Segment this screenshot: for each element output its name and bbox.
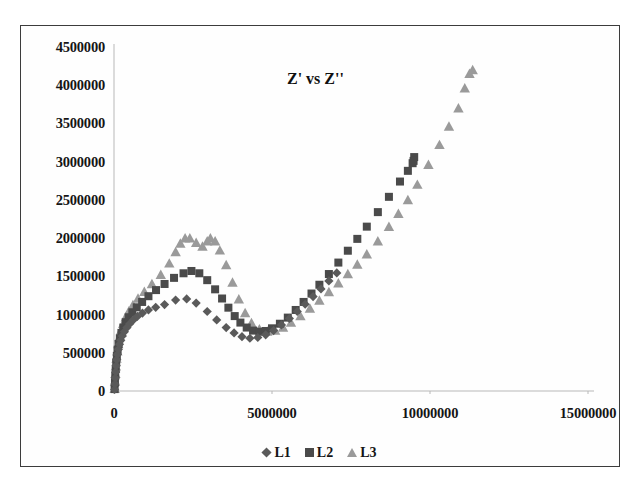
data-point-square bbox=[374, 208, 382, 216]
data-point-triangle bbox=[215, 245, 225, 254]
data-point-triangle bbox=[170, 247, 180, 256]
y-axis-tick-label: 3500000 bbox=[0, 115, 105, 132]
data-point-square bbox=[385, 193, 393, 201]
data-point-square bbox=[195, 269, 203, 277]
legend-entry-L2[interactable]: L2 bbox=[305, 444, 333, 461]
series-layer bbox=[109, 65, 477, 394]
data-point-diamond bbox=[171, 295, 180, 304]
legend-triangle-icon bbox=[347, 448, 357, 457]
y-axis-tick-label: 500000 bbox=[0, 344, 105, 361]
x-axis-tick-label: 5000000 bbox=[247, 405, 296, 422]
legend-label: L1 bbox=[274, 445, 290, 461]
y-axis-tick-label: 1500000 bbox=[0, 268, 105, 285]
series-L2 bbox=[111, 153, 419, 393]
legend-label: L2 bbox=[317, 445, 333, 461]
data-point-triangle bbox=[423, 160, 433, 169]
legend-label: L3 bbox=[360, 445, 376, 461]
data-point-square bbox=[404, 167, 412, 175]
x-axis-tick-label: 0 bbox=[110, 405, 117, 422]
y-axis-tick-label: 2000000 bbox=[0, 230, 105, 247]
legend-entry-L1[interactable]: L1 bbox=[262, 444, 290, 461]
data-point-triangle bbox=[156, 270, 166, 279]
data-point-diamond bbox=[229, 328, 238, 337]
data-point-diamond bbox=[203, 307, 212, 316]
data-point-diamond bbox=[160, 300, 169, 309]
data-point-diamond bbox=[332, 268, 341, 277]
data-point-square bbox=[396, 178, 404, 186]
data-point-triangle bbox=[412, 179, 422, 188]
data-point-square bbox=[203, 276, 211, 284]
data-point-square bbox=[218, 295, 226, 303]
data-point-triangle bbox=[384, 221, 394, 230]
data-point-triangle bbox=[444, 121, 454, 130]
data-point-diamond bbox=[192, 298, 201, 307]
data-point-square bbox=[224, 304, 232, 312]
data-point-square bbox=[144, 292, 152, 300]
data-point-square bbox=[161, 280, 169, 288]
data-point-triangle bbox=[221, 260, 231, 269]
data-point-triangle bbox=[373, 236, 383, 245]
y-axis-tick-label: 3000000 bbox=[0, 153, 105, 170]
data-point-square bbox=[170, 274, 178, 282]
data-point-square bbox=[334, 259, 342, 267]
data-point-triangle bbox=[403, 195, 413, 204]
data-point-triangle bbox=[434, 140, 444, 149]
data-point-triangle bbox=[324, 287, 334, 296]
data-point-triangle bbox=[453, 103, 463, 112]
chart-legend: L1L2L3 bbox=[0, 444, 639, 461]
data-point-diamond bbox=[237, 332, 246, 341]
axis-layer bbox=[114, 44, 594, 394]
data-point-square bbox=[152, 286, 160, 294]
data-point-diamond bbox=[222, 323, 231, 332]
data-point-triangle bbox=[352, 259, 362, 268]
data-point-diamond bbox=[212, 315, 221, 324]
data-point-square bbox=[363, 223, 371, 231]
data-point-square bbox=[344, 247, 352, 255]
x-axis-tick-label: 15000000 bbox=[560, 405, 616, 422]
data-point-square bbox=[187, 267, 195, 275]
legend-diamond-icon bbox=[262, 448, 272, 458]
y-axis-tick-label: 1000000 bbox=[0, 306, 105, 323]
y-axis-tick-label: 0 bbox=[0, 383, 105, 400]
x-axis-tick-label: 10000000 bbox=[402, 405, 458, 422]
data-point-square bbox=[353, 235, 361, 243]
data-point-diamond bbox=[182, 294, 191, 303]
data-point-triangle bbox=[240, 308, 250, 317]
data-point-square bbox=[180, 269, 188, 277]
series-L3 bbox=[109, 65, 477, 393]
y-axis-tick-label: 2500000 bbox=[0, 191, 105, 208]
data-point-triangle bbox=[393, 208, 403, 217]
data-point-triangle bbox=[164, 258, 174, 267]
data-point-triangle bbox=[227, 277, 237, 286]
data-point-triangle bbox=[333, 278, 343, 287]
legend-square-icon bbox=[305, 448, 314, 457]
data-point-triangle bbox=[362, 249, 372, 258]
data-point-square bbox=[211, 285, 219, 293]
chart-title: Z' vs Z'' bbox=[287, 70, 344, 88]
y-axis-tick-label: 4500000 bbox=[0, 39, 105, 56]
legend-entry-L3[interactable]: L3 bbox=[347, 444, 376, 461]
data-point-triangle bbox=[460, 83, 470, 92]
data-point-diamond bbox=[245, 334, 254, 343]
figure-root: 0500000100000015000002000000250000030000… bbox=[0, 0, 639, 492]
data-point-triangle bbox=[343, 269, 353, 278]
data-point-triangle bbox=[234, 294, 244, 303]
y-axis-tick-label: 4000000 bbox=[0, 77, 105, 94]
data-point-square bbox=[410, 157, 418, 165]
